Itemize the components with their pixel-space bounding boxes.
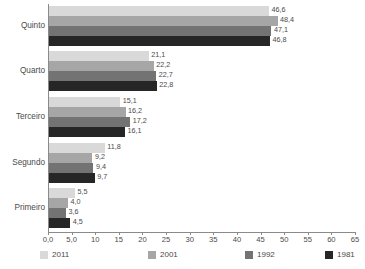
bar-value-label: 4,0 — [68, 197, 81, 207]
bar-row: 48,4 — [49, 16, 355, 26]
bar-1992-Segundo — [49, 163, 93, 173]
bar-value-label: 17,2 — [130, 116, 147, 126]
bar-value-label: 16,2 — [126, 106, 143, 116]
legend-label: 2001 — [160, 250, 178, 259]
bar-row: 9,7 — [49, 173, 355, 183]
bar-group: 5,54,03,64,5 — [49, 188, 355, 228]
bar-1992-Terceiro — [49, 117, 130, 127]
bar-1981-Segundo — [49, 173, 95, 183]
bar-1981-Terceiro — [49, 127, 125, 137]
tick-label: 30 — [185, 235, 193, 244]
bar-1981-Quinto — [49, 36, 270, 46]
bar-1981-Quarto — [49, 81, 157, 91]
bar-1992-Quarto — [49, 71, 156, 81]
legend-label: 1992 — [257, 250, 275, 259]
bar-row: 21,1 — [49, 51, 355, 61]
bar-row: 46,8 — [49, 36, 355, 46]
legend-item-1992[interactable]: 1992 — [245, 250, 275, 259]
bar-row: 22,7 — [49, 71, 355, 81]
bar-value-label: 48,4 — [278, 15, 295, 25]
bar-2001-Quinto — [49, 16, 278, 26]
bar-value-label: 9,2 — [92, 152, 105, 162]
bar-value-label: 5,5 — [75, 187, 88, 197]
bar-1981-Primeiro — [49, 218, 70, 228]
bar-row: 4,0 — [49, 198, 355, 208]
bar-group: 11,89,29,49,7 — [49, 143, 355, 183]
tick-label: 5,0 — [66, 235, 77, 244]
bar-value-label: 3,6 — [66, 207, 79, 217]
bar-row: 22,8 — [49, 81, 355, 91]
bar-value-label: 46,8 — [270, 35, 287, 45]
legend-item-1981[interactable]: 1981 — [325, 250, 355, 259]
bar-value-label: 22,7 — [156, 70, 173, 80]
category-label-quinto: Quinto — [1, 21, 45, 30]
bar-group: 46,648,447,146,8 — [49, 6, 355, 46]
tick-label: 20 — [138, 235, 146, 244]
bar-value-label: 9,4 — [93, 162, 106, 172]
category-axis-labels: QuintoQuartoTerceiroSegundoPrimeiro — [0, 4, 45, 232]
bar-value-label: 47,1 — [271, 25, 288, 35]
bar-row: 16,2 — [49, 107, 355, 117]
category-label-terceiro: Terceiro — [1, 112, 45, 121]
tick-label: 35 — [209, 235, 217, 244]
category-label-primeiro: Primeiro — [1, 203, 45, 212]
bar-row: 15,1 — [49, 97, 355, 107]
bar-row: 17,2 — [49, 117, 355, 127]
legend-item-2011[interactable]: 2011 — [40, 250, 69, 259]
bar-value-label: 16,1 — [125, 126, 142, 136]
tick-label: 50 — [280, 235, 288, 244]
legend-swatch-icon — [148, 251, 156, 259]
bar-value-label: 4,5 — [70, 217, 83, 227]
tick-label: 65 — [351, 235, 359, 244]
bar-value-label: 15,1 — [120, 96, 137, 106]
bar-value-label: 22,8 — [157, 80, 174, 90]
bar-value-label: 46,6 — [269, 5, 286, 15]
tick-label: 40 — [233, 235, 241, 244]
bar-2011-Quinto — [49, 6, 269, 16]
bar-2001-Segundo — [49, 153, 92, 163]
bar-value-label: 21,1 — [149, 50, 166, 60]
bar-2011-Quarto — [49, 51, 149, 61]
bar-1992-Primeiro — [49, 208, 66, 218]
bar-row: 4,5 — [49, 218, 355, 228]
legend-label: 2011 — [52, 250, 69, 259]
legend-item-2001[interactable]: 2001 — [148, 250, 178, 259]
tick-label: 45 — [256, 235, 264, 244]
bar-row: 3,6 — [49, 208, 355, 218]
chart-legend: 2011200119921981 — [0, 250, 365, 266]
bar-value-label: 9,7 — [95, 172, 108, 182]
bar-group: 15,116,217,216,1 — [49, 97, 355, 137]
category-label-quarto: Quarto — [1, 66, 45, 75]
bar-row: 16,1 — [49, 127, 355, 137]
bar-1992-Quinto — [49, 26, 271, 36]
bar-row: 5,5 — [49, 188, 355, 198]
bar-chart: QuintoQuartoTerceiroSegundoPrimeiro 46,6… — [0, 0, 365, 269]
bar-value-label: 22,2 — [154, 60, 171, 70]
legend-label: 1981 — [337, 250, 355, 259]
tick-label: 15 — [115, 235, 123, 244]
category-label-segundo: Segundo — [1, 158, 45, 167]
legend-swatch-icon — [245, 251, 253, 259]
bar-2001-Quarto — [49, 61, 154, 71]
x-axis-ticks: 0,05,0101520253035404550556065 — [48, 232, 355, 248]
tick-label: 25 — [162, 235, 170, 244]
bar-2001-Terceiro — [49, 107, 126, 117]
bar-row: 46,6 — [49, 6, 355, 16]
legend-swatch-icon — [40, 251, 48, 259]
tick-label: 10 — [91, 235, 99, 244]
tick-label: 0,0 — [43, 235, 54, 244]
bar-group: 21,122,222,722,8 — [49, 51, 355, 91]
legend-swatch-icon — [325, 251, 333, 259]
bar-2011-Terceiro — [49, 97, 120, 107]
bar-value-label: 11,8 — [105, 142, 121, 152]
plot-area: 46,648,447,146,821,122,222,722,815,116,2… — [48, 4, 355, 232]
bar-row: 22,2 — [49, 61, 355, 71]
tick-label: 60 — [327, 235, 335, 244]
tick-label: 55 — [304, 235, 312, 244]
bar-row: 47,1 — [49, 26, 355, 36]
